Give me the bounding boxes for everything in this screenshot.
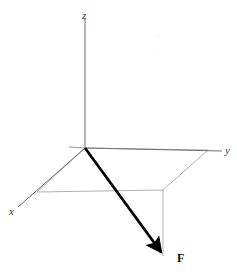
x-axis-label: x	[9, 206, 14, 217]
z-axis-label: z	[82, 10, 86, 21]
force-vector-label: F	[177, 252, 184, 264]
diagram-canvas	[0, 0, 237, 279]
x-axis-line	[18, 148, 85, 207]
force-vector-diagram: z y x F o x	[0, 0, 237, 279]
projection-parallelogram	[37, 148, 208, 192]
faint-watermark-mark-one: o	[155, 32, 160, 41]
force-vector-arrow	[85, 148, 161, 252]
y-axis-back-stub	[69, 147, 85, 148]
faint-watermark-mark-two: x	[155, 48, 160, 57]
y-axis-label: y	[225, 145, 230, 156]
